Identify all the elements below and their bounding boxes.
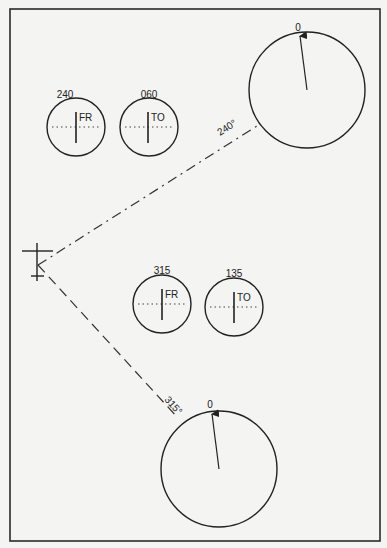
vor-diagram: 240° 315° 240 FR 060 TO 0 315 FR 135 [0,0,387,548]
upper-indicator-060: 060 TO [120,89,178,156]
aircraft-icon [22,243,53,281]
dial-top-label: 0 [207,399,213,410]
radial-240-line [38,124,260,265]
radial-315-line [38,265,178,418]
bearing-needle [300,36,307,90]
lower-bearing-dial: 0 [161,399,277,527]
radial-315-label: 315° [163,394,185,417]
bearing-needle [212,414,219,469]
lower-indicator-315: 315 FR [133,265,191,333]
lower-indicator-135: 135 TO [205,268,263,336]
flag-label: FR [165,289,178,300]
upper-indicator-240: 240 FR [47,89,105,156]
radial-240-label: 240° [215,117,238,137]
flag-label: TO [237,292,251,303]
dial-top-label: 0 [295,22,301,33]
flag-label: FR [79,112,92,123]
upper-bearing-dial: 0 [249,22,365,148]
flag-label: TO [151,112,165,123]
